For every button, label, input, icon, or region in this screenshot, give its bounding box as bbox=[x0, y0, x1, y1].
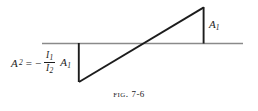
figure-caption: Fig.7-6 bbox=[0, 89, 258, 99]
figure-container: A2 = − I1 I2 A1 A1 Fig.7-6 bbox=[0, 0, 258, 111]
fraction-denominator-subscript: 2 bbox=[50, 67, 54, 75]
fraction-numerator-subscript: 1 bbox=[50, 54, 54, 62]
fraction-numerator: I1 bbox=[45, 51, 54, 62]
ramp-line bbox=[79, 7, 204, 82]
equation-trailing-variable: A bbox=[60, 56, 67, 68]
equation-lhs-variable: A bbox=[11, 58, 18, 69]
label-amplitude-subscript: 1 bbox=[216, 24, 220, 32]
equation-lhs-subscript: 2 bbox=[19, 59, 23, 67]
label-amplitude-variable: A bbox=[209, 18, 216, 30]
equation-fraction: I1 I2 bbox=[44, 51, 55, 75]
equation-relation: = bbox=[26, 58, 32, 69]
equation-minus-sign: − bbox=[35, 58, 41, 69]
equation-trailing-subscript: 1 bbox=[67, 62, 71, 70]
fraction-denominator: I2 bbox=[45, 64, 54, 75]
figure-caption-number: 7-6 bbox=[132, 89, 145, 99]
equation-a2: A2 = − I1 I2 A1 bbox=[11, 51, 71, 75]
figure-caption-label: Fig. bbox=[113, 89, 128, 99]
equation-trailing-term: A1 bbox=[60, 57, 71, 70]
label-amplitude-a1: A1 bbox=[209, 19, 219, 32]
